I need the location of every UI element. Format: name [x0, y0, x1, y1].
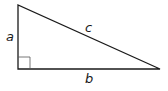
hypotenuse-label-c: c	[85, 20, 92, 35]
right-angle-marker	[18, 57, 30, 69]
right-triangle-diagram: a c b	[0, 0, 168, 91]
side-label-a: a	[6, 29, 14, 44]
side-label-b: b	[85, 71, 93, 86]
triangle-outline	[18, 5, 160, 69]
